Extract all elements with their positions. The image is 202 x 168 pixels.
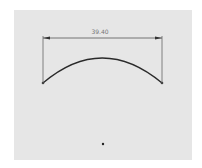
arc-endpoint-left[interactable] bbox=[42, 82, 45, 85]
sketch-arc[interactable] bbox=[43, 58, 162, 83]
sketch-drawing: 39.40 bbox=[0, 0, 202, 168]
arc-endpoint-right[interactable] bbox=[161, 82, 164, 85]
origin-point-icon[interactable] bbox=[102, 143, 104, 145]
dimension-label[interactable]: 39.40 bbox=[91, 28, 108, 35]
arrow-left-icon bbox=[43, 37, 50, 40]
arrow-right-icon bbox=[155, 37, 162, 40]
